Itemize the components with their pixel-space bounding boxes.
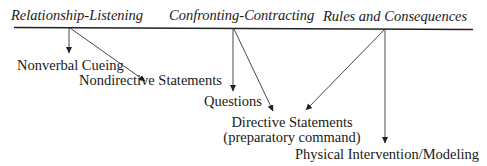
technique-directive-statements-sublabel: (preparatory command) — [222, 130, 362, 144]
teacher-behavior-continuum-diagram: Relationship-Listening Confronting-Contr… — [0, 0, 487, 166]
category-relationship-listening: Relationship-Listening — [11, 8, 143, 22]
technique-nonverbal-cueing: Nonverbal Cueing — [17, 58, 124, 72]
technique-nondirective-statements: Nondirective Statements — [79, 73, 222, 87]
category-rules-and-consequences: Rules and Consequences — [323, 9, 467, 23]
arrow-rc-directive — [306, 29, 385, 110]
technique-questions: Questions — [204, 94, 262, 108]
technique-directive-statements: Directive Statements — [222, 115, 362, 129]
category-confronting-contracting: Confronting-Contracting — [169, 8, 314, 22]
continuum-line — [14, 28, 473, 30]
technique-physical-intervention: Physical Intervention/Modeling — [295, 147, 479, 161]
